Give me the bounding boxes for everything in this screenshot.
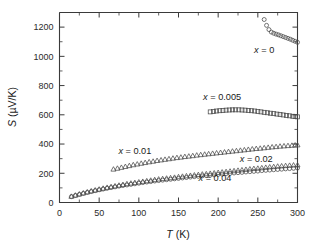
y-tick-label: 200 (38, 169, 53, 179)
y-tick-label: 0 (48, 198, 53, 208)
y-tick-label: 400 (38, 139, 53, 149)
y-tick-label: 1200 (33, 22, 53, 32)
thermopower-chart: 050100150200250300 020040060080010001200… (0, 0, 315, 246)
data-point-circle (293, 39, 297, 43)
figure-container: 050100150200250300 020040060080010001200… (0, 0, 315, 246)
series-label-value: = 0 (259, 45, 275, 55)
data-point-circle (272, 31, 276, 35)
y-tick-label: 800 (38, 81, 53, 91)
x-tick-label: 300 (290, 208, 305, 218)
data-point-circle (256, 169, 260, 173)
x-axis-title: T (K) (166, 228, 189, 240)
series-annotation-labels: x = 0x = 0.005x = 0.01x = 0.02x = 0.04 (117, 45, 274, 182)
series-x-0 (262, 18, 299, 45)
data-point-circle (269, 30, 273, 34)
y-axis-title: S (µV/K) (6, 87, 18, 127)
series-label-value: = 0.04 (203, 173, 231, 183)
series-x-0-02 (69, 162, 300, 198)
series-label-value: = 0.01 (123, 146, 151, 156)
series-x-0-04 (69, 166, 299, 199)
data-point-circle (265, 23, 269, 27)
axis-title-units: (µV/K) (6, 87, 18, 120)
y-tick-label: 600 (38, 110, 53, 120)
axis-title-symbol: S (6, 120, 18, 127)
series-label-value: = 0.02 (244, 154, 272, 164)
data-point-circle (267, 28, 271, 32)
series-label: x = 0.04 (198, 173, 232, 183)
series-x-0-005 (208, 108, 299, 119)
x-tick-label: 200 (211, 208, 226, 218)
x-tick-label: 100 (131, 208, 146, 218)
y-axis-tick-labels: 020040060080010001200 (33, 22, 53, 207)
series-label: x = 0 (253, 45, 274, 55)
series-label: x = 0.01 (117, 146, 151, 156)
series-label: x = 0.005 (202, 92, 241, 102)
x-tick-label: 50 (94, 208, 104, 218)
axis-title-units: (K) (173, 228, 190, 240)
x-axis-tick-labels: 050100150200250300 (57, 208, 305, 218)
data-point-circle (286, 36, 290, 40)
series-label-value: = 0.005 (208, 92, 241, 102)
data-point-circle (276, 33, 280, 37)
data-point-circle (281, 35, 285, 39)
data-point-circle (279, 34, 283, 38)
data-point-circle (262, 18, 266, 22)
data-point-circle (264, 168, 268, 172)
x-tick-label: 250 (250, 208, 265, 218)
data-point-circle (284, 35, 288, 39)
data-point-circle (288, 37, 292, 41)
data-point-circle (260, 169, 264, 173)
y-tick-label: 1000 (33, 52, 53, 62)
data-point-circle (291, 38, 295, 42)
x-tick-label: 150 (171, 208, 186, 218)
data-point-circle (252, 169, 256, 173)
series-label: x = 0.02 (239, 154, 273, 164)
x-tick-label: 0 (57, 208, 62, 218)
